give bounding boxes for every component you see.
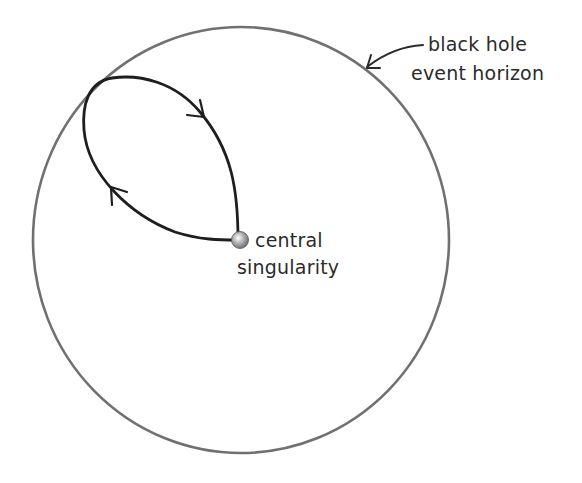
event-horizon-label-line2: event horizon [411, 62, 544, 84]
singularity-sphere-icon [232, 232, 249, 249]
event-horizon-label-line1: black hole [428, 33, 527, 55]
singularity-label-line2: singularity [237, 256, 339, 278]
singularity-label-line1: central [255, 229, 323, 251]
orbit-loop-path [84, 77, 238, 240]
